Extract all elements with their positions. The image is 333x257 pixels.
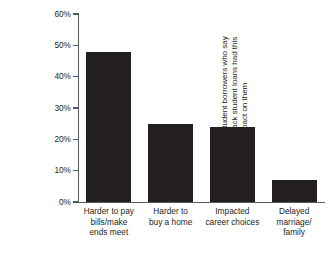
y-tick-label-text: 40% (50, 72, 71, 81)
y-tick-label: 20% (50, 135, 71, 144)
y-tick-label: 10% (50, 166, 71, 175)
x-axis-label-line: marriage/ (263, 217, 325, 228)
x-axis-label-line: Harder to pay (78, 206, 140, 217)
x-axis-label-line: career choices (202, 217, 264, 228)
bar (86, 52, 131, 202)
x-axis-label: Harder tobuy a home (140, 206, 202, 227)
y-tick-label: 60% (50, 10, 71, 19)
x-axis-label-line: ends meet (78, 227, 140, 238)
bar (272, 180, 317, 202)
bar-chart: Percentage of student borrowers who say … (0, 0, 333, 257)
y-tick-label: 30% (50, 104, 71, 113)
y-tick-label: 50% (50, 41, 71, 50)
plot-area (78, 14, 325, 202)
y-tick-label-text: 0% (50, 198, 71, 207)
x-axis-label-line: Impacted (202, 206, 264, 217)
x-axis-label-line: buy a home (140, 217, 202, 228)
bar (210, 127, 255, 202)
y-tick-label-text: 20% (50, 135, 71, 144)
x-axis-label-line: Delayed (263, 206, 325, 217)
x-axis-label-line: Harder to (140, 206, 202, 217)
x-axis-label-line: bills/make (78, 217, 140, 228)
x-axis-label: Impactedcareer choices (202, 206, 264, 227)
x-axis-label: Delayedmarriage/family (263, 206, 325, 238)
bar (148, 124, 193, 202)
y-tick-label-text: 30% (50, 104, 71, 113)
y-tick-label: 40% (50, 72, 71, 81)
y-tick-label-text: 60% (50, 10, 71, 19)
y-tick-label-text: 10% (50, 166, 71, 175)
y-tick-label: 0% (50, 198, 71, 207)
x-axis-label: Harder to paybills/makeends meet (78, 206, 140, 238)
x-axis-label-line: family (263, 227, 325, 238)
y-tick-label-text: 50% (50, 41, 71, 50)
y-axis-title: Percentage of student borrowers who say … (0, 0, 46, 220)
